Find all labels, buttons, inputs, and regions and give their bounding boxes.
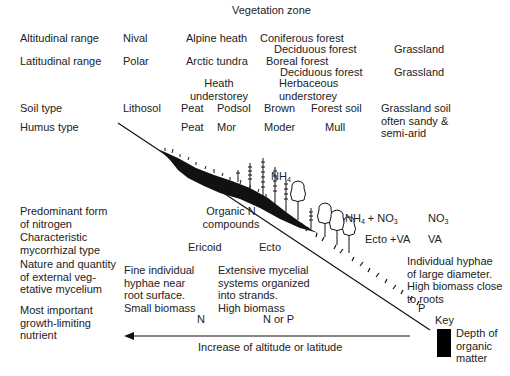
mycorrhizal-ecto-va: Ecto +VA <box>365 233 410 246</box>
mycorrhizal-ecto: Ecto <box>259 241 281 254</box>
conifer-icon <box>248 163 252 188</box>
nitrogen-no3: NO3 <box>428 212 448 229</box>
key-swatch <box>437 329 451 357</box>
mycelium-ericoid: Fine individual hyphae near root surface… <box>124 264 196 314</box>
mycorrhizal-ericoid: Ericoid <box>188 241 222 254</box>
mycelium-ecto: Extensive mycelial systems organized int… <box>218 264 310 314</box>
nitrogen-nh4-no3: NH4 + NO3 <box>345 212 398 229</box>
limiting-p: P <box>418 302 425 315</box>
key-title: Key <box>435 314 454 327</box>
nitrogen-nh4: NH4 <box>271 170 291 187</box>
slope-illustration <box>0 0 510 376</box>
mycelium-va: Individual hyphae of large diameter. Hig… <box>407 255 502 305</box>
limiting-n: N <box>197 313 205 326</box>
conifer-icon <box>261 158 265 197</box>
nitrogen-organic: Organic N compounds <box>191 205 271 230</box>
conifer-icon <box>309 208 313 229</box>
deciduous-tree-icon <box>291 181 306 220</box>
mycorrhizal-va: VA <box>428 233 442 246</box>
conifer-icon <box>236 170 240 182</box>
key-label: Depth of organic matter <box>456 327 498 365</box>
arrow-head-icon <box>124 332 134 340</box>
limiting-n-or-p: N or P <box>263 313 294 326</box>
arrow-label: Increase of altitude or latitude <box>198 341 342 354</box>
